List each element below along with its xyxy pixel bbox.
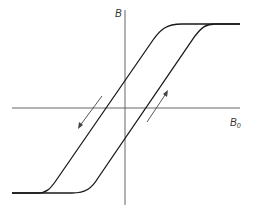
down-left-arrow-icon [78,96,102,129]
descending-branch-curve [12,24,240,193]
ascending-branch-curve [12,24,240,193]
up-right-arrow-icon [147,90,168,122]
hysteresis-diagram: B B0 [0,0,253,212]
y-axis-label: B [115,8,122,19]
x-axis-label: B0 [230,117,241,129]
